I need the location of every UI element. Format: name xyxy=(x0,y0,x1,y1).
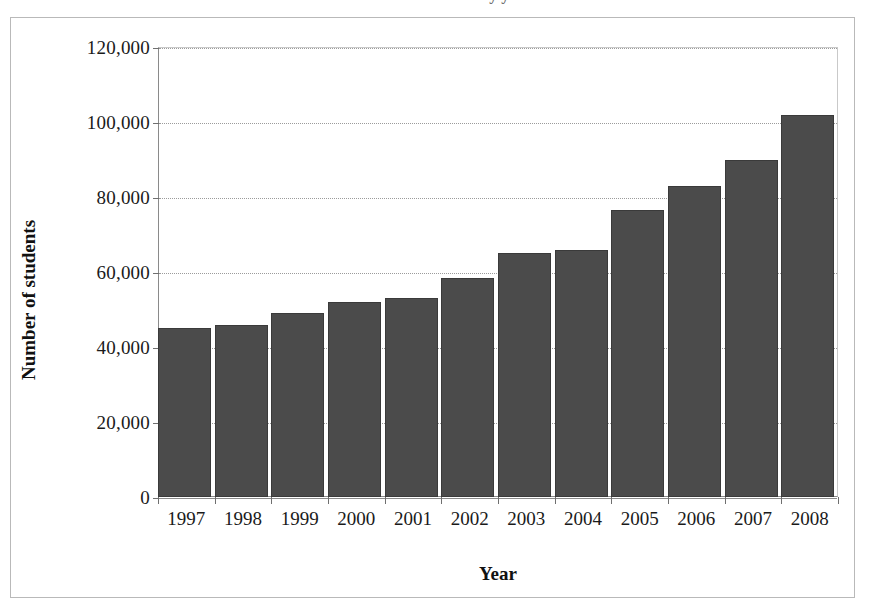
bar-2002 xyxy=(441,278,494,497)
y-axis-tick-label: 120,000 xyxy=(87,37,150,59)
y-axis-tick-label: 80,000 xyxy=(97,187,150,209)
bars-layer xyxy=(158,47,838,497)
x-axis-tick xyxy=(838,497,839,504)
bar-slot xyxy=(441,47,494,497)
bar-slot xyxy=(498,47,551,497)
bar-chart: 020,00040,00060,00080,000100,000120,000 … xyxy=(0,0,873,616)
bar-2004 xyxy=(555,250,608,498)
x-axis-title-label: Year xyxy=(479,563,517,584)
bar-2007 xyxy=(725,160,778,498)
bar-slot xyxy=(781,47,834,497)
x-axis-tick-label: 2007 xyxy=(734,508,772,530)
x-axis-tick-label: 1998 xyxy=(224,508,262,530)
x-axis-tick xyxy=(158,497,159,504)
y-axis-title: Number of students xyxy=(12,185,46,415)
x-axis-tick-label: 2001 xyxy=(394,508,432,530)
bar-1998 xyxy=(215,325,268,498)
y-axis-tick-label: 100,000 xyxy=(87,112,150,134)
y-axis-tick-label: 60,000 xyxy=(97,262,150,284)
bar-2008 xyxy=(781,115,834,498)
bar-slot xyxy=(555,47,608,497)
x-axis-tick-label: 2003 xyxy=(507,508,545,530)
bar-slot xyxy=(385,47,438,497)
x-axis-tick xyxy=(385,497,386,504)
x-axis-title: Year xyxy=(158,563,838,585)
x-axis-tick xyxy=(555,497,556,504)
bar-slot xyxy=(328,47,381,497)
x-axis-tick xyxy=(498,497,499,504)
x-axis-tick-label: 2008 xyxy=(791,508,829,530)
bar-2001 xyxy=(385,298,438,497)
x-axis-tick xyxy=(611,497,612,504)
bar-2006 xyxy=(668,186,721,497)
x-axis-tick-label: 1999 xyxy=(281,508,319,530)
bar-2003 xyxy=(498,253,551,497)
x-axis-tick xyxy=(781,497,782,504)
bar-slot xyxy=(725,47,778,497)
x-axis-tick-label: 2004 xyxy=(564,508,602,530)
y-axis-tick-label: 40,000 xyxy=(97,337,150,359)
bar-1999 xyxy=(271,313,324,497)
x-axis-tick xyxy=(725,497,726,504)
x-axis-tick xyxy=(215,497,216,504)
x-axis: 1997199819992000200120022003200420052006… xyxy=(158,497,838,557)
y-axis-title-label: Number of students xyxy=(18,220,40,380)
y-axis-tick-label: 20,000 xyxy=(97,412,150,434)
x-axis-tick xyxy=(271,497,272,504)
bar-slot xyxy=(158,47,211,497)
x-axis-tick xyxy=(668,497,669,504)
bar-slot xyxy=(215,47,268,497)
bar-slot xyxy=(611,47,664,497)
bar-slot xyxy=(668,47,721,497)
bar-1997 xyxy=(158,328,211,497)
x-axis-tick-label: 2002 xyxy=(451,508,489,530)
x-axis-tick-label: 2006 xyxy=(677,508,715,530)
y-axis-tick-label: 0 xyxy=(140,487,150,509)
bar-2000 xyxy=(328,302,381,497)
x-axis-tick-label: 1997 xyxy=(167,508,205,530)
x-axis-tick xyxy=(328,497,329,504)
x-axis-tick xyxy=(441,497,442,504)
x-axis-tick-label: 2000 xyxy=(337,508,375,530)
bar-slot xyxy=(271,47,324,497)
x-axis-tick-label: 2005 xyxy=(621,508,659,530)
bar-2005 xyxy=(611,210,664,497)
